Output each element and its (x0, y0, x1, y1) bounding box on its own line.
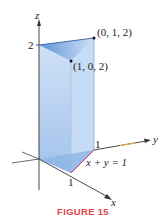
z-axis-label: z (35, 10, 39, 21)
point-010-2-marker (93, 37, 96, 40)
point-label-012: (0, 1, 2) (97, 27, 132, 38)
z-tick-label: 2 (28, 40, 34, 51)
point-label-102: (1, 0, 2) (73, 61, 108, 72)
figure-caption: FIGURE 15 (0, 206, 166, 217)
prism-diagram (0, 0, 166, 220)
x-axis-negative (22, 152, 39, 159)
y-axis-negative (12, 159, 39, 163)
trace-equation-label: x + y = 1 (86, 157, 127, 168)
prism-left-face (39, 45, 71, 173)
y-axis-arrow-icon (144, 139, 151, 144)
x-tick-label: 1 (68, 177, 74, 188)
y-axis-label: y (153, 134, 158, 145)
y-tick-label: 1 (95, 139, 101, 150)
y-axis-highlight (120, 143, 136, 146)
